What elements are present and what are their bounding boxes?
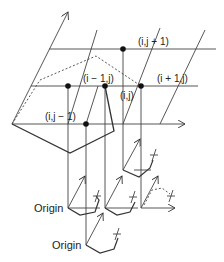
sub-arrow bbox=[86, 213, 103, 245]
node-bottom bbox=[83, 121, 89, 127]
label-center: (i,j) bbox=[120, 90, 134, 101]
node-left-mid bbox=[65, 83, 71, 89]
sub-arrow bbox=[105, 176, 122, 208]
node-top bbox=[120, 46, 126, 52]
sub-contour bbox=[105, 202, 135, 215]
sub-contour bbox=[86, 238, 118, 253]
vertical-axis-arrow bbox=[12, 12, 68, 124]
sub-arrow bbox=[123, 139, 140, 170]
label-bottom: (i,j − 1) bbox=[45, 111, 76, 122]
origin-label-1: Origin bbox=[34, 202, 63, 214]
node-center bbox=[102, 83, 108, 89]
sub-dotted-contour bbox=[144, 188, 170, 205]
grid-col bbox=[86, 86, 98, 124]
label-left-mid: (i − 1,j) bbox=[83, 73, 114, 84]
node-right-mid bbox=[138, 83, 144, 89]
label-right-mid: (i + 1,j) bbox=[157, 73, 188, 84]
origin-label-2: Origin bbox=[52, 239, 81, 251]
label-top: (i,j + 1) bbox=[138, 36, 169, 47]
sub-arrow bbox=[141, 176, 158, 208]
sub-arrow bbox=[68, 176, 85, 208]
grid-diagram: (i,j + 1) (i − 1,j) (i,j) (i + 1,j) (i,j… bbox=[0, 0, 224, 262]
